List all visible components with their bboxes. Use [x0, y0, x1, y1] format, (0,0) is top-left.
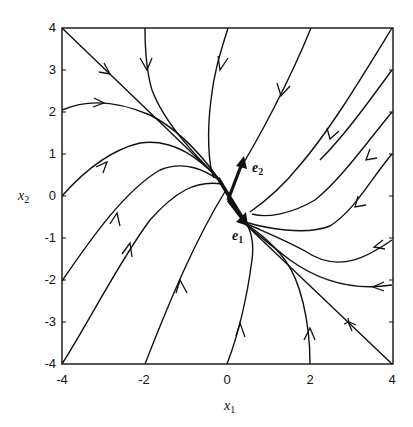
phase-portrait: 4 3 2 1 0 -1 -2 -3 -4 -4 -2 0 2 4 x1 x2	[0, 0, 413, 427]
y-tick-label: -1	[44, 230, 56, 245]
e2-label: e2	[252, 160, 263, 177]
x-tick-label: 0	[223, 372, 230, 387]
y-tick-label: 1	[49, 146, 56, 161]
y-tick-label: -3	[44, 314, 56, 329]
y-axis-label: x2	[17, 188, 29, 205]
y-tick-label: 0	[49, 188, 56, 203]
y-tick-label: 4	[49, 20, 56, 35]
x-tick-label: 4	[388, 372, 395, 387]
eigenvector-e2	[228, 156, 247, 200]
y-tick-label: -4	[44, 356, 56, 371]
x-tick-label: -4	[56, 372, 68, 387]
y-tick-label: 3	[49, 62, 56, 77]
e1-label: e1	[232, 228, 243, 245]
x-axis-label: x1	[223, 398, 235, 415]
x-tick-label: 2	[306, 372, 313, 387]
y-tick-label: -2	[44, 272, 56, 287]
eigenvector-e1	[228, 200, 248, 226]
e2-arrowhead-icon	[236, 156, 247, 169]
y-tick-label: 2	[49, 104, 56, 119]
x-tick-label: -2	[138, 372, 150, 387]
